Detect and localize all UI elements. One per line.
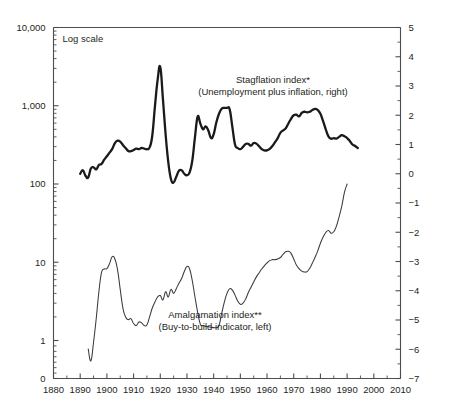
x-tick-label: 1990 (337, 384, 358, 395)
x-tick-label: 1950 (230, 384, 251, 395)
labels-group: 1101001,00010,0000543210−1−2−3−4−5−6−718… (16, 22, 419, 395)
x-tick-label: 1960 (256, 384, 277, 395)
left-tick-label: 1,000 (22, 100, 46, 111)
x-tick-label: 1880 (43, 384, 64, 395)
right-tick-label: 2 (409, 110, 414, 121)
right-tick-label: 3 (409, 80, 414, 91)
right-tick-label: 5 (409, 22, 414, 33)
right-tick-label: −6 (409, 344, 420, 355)
chart-container: 1101001,00010,0000543210−1−2−3−4−5−6−718… (0, 0, 449, 420)
right-tick-label: −7 (409, 373, 420, 384)
amalgamation-annotation-line2: (Buy-to-build indicator, left) (159, 321, 272, 332)
x-tick-label: 2010 (390, 384, 411, 395)
log-scale-note: Log scale (63, 33, 104, 44)
amalgamation-index-line (88, 184, 347, 361)
amalgamation-annotation-line1: Amalgamation index** (168, 309, 262, 320)
x-tick-label: 2000 (363, 384, 384, 395)
amalgamation-annotation: Amalgamation index**(Buy-to-build indica… (159, 309, 272, 332)
x-tick-label: 1910 (123, 384, 144, 395)
right-tick-label: −1 (409, 197, 420, 208)
left-tick-label: 1 (40, 335, 45, 346)
left-baseline-label: 0 (40, 373, 45, 384)
right-tick-label: −3 (409, 256, 420, 267)
stagflation-annotation-line1: Stagflation index* (236, 74, 310, 85)
left-tick-label: 100 (30, 178, 46, 189)
stagflation-amalgamation-chart: 1101001,00010,0000543210−1−2−3−4−5−6−718… (0, 0, 449, 420)
right-tick-label: 4 (409, 51, 414, 62)
left-tick-label: 10 (35, 257, 46, 268)
x-tick-label: 1930 (176, 384, 197, 395)
right-tick-label: −2 (409, 227, 420, 238)
x-tick-label: 1970 (283, 384, 304, 395)
right-tick-label: −4 (409, 285, 420, 296)
left-tick-label: 10,000 (16, 22, 45, 33)
stagflation-annotation: Stagflation index*(Unemployment plus inf… (198, 74, 347, 97)
x-tick-label: 1890 (70, 384, 91, 395)
x-tick-label: 1940 (203, 384, 224, 395)
x-tick-label: 1980 (310, 384, 331, 395)
right-tick-label: 0 (409, 168, 414, 179)
x-tick-label: 1920 (150, 384, 171, 395)
x-tick-label: 1900 (96, 384, 117, 395)
stagflation-index-line (80, 66, 358, 183)
right-tick-label: −5 (409, 314, 420, 325)
right-tick-label: 1 (409, 139, 414, 150)
stagflation-annotation-line2: (Unemployment plus inflation, right) (198, 86, 347, 97)
